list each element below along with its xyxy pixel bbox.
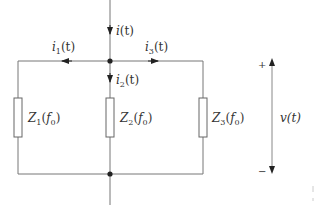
junction-node-top bbox=[107, 58, 112, 63]
voltage-minus-sign: − bbox=[258, 166, 266, 177]
impedance-z1-label: Z1(f0) bbox=[27, 111, 60, 127]
impedance-z3 bbox=[199, 98, 207, 137]
impedance-z2-label: Z2(f0) bbox=[119, 111, 152, 127]
impedance-z1 bbox=[14, 98, 22, 137]
impedance-z3-label: Z3(f0) bbox=[211, 111, 244, 127]
circuit-diagram: i(t) i1(t) i2(t) i3(t) Z1(f0) Z2(f0) Z3(… bbox=[0, 0, 316, 214]
voltage-label: v(t) bbox=[280, 111, 301, 125]
voltage-arrow-up-icon bbox=[269, 58, 275, 66]
current-i-label: i(t) bbox=[116, 24, 134, 38]
voltage-plus-sign: + bbox=[258, 59, 266, 70]
current-i2-label: i2(t) bbox=[116, 73, 139, 89]
impedance-z2 bbox=[106, 98, 114, 137]
voltage-arrow-down-icon bbox=[269, 166, 275, 174]
current-i1-label: i1(t) bbox=[52, 40, 75, 56]
current-i3-label: i3(t) bbox=[145, 40, 168, 56]
junction-node-bottom bbox=[107, 171, 112, 176]
